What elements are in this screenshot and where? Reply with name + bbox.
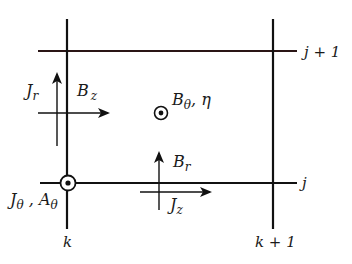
jz-label: Jz — [167, 195, 183, 217]
staggered-grid-diagram: j + 1 j k k + 1 Jr Bz Bθ, η Br Jz Jθ , A… — [0, 0, 352, 264]
bz-label: Bz — [76, 81, 98, 103]
row-label-j-plus-1: j + 1 — [301, 43, 340, 61]
br-label: Br — [172, 152, 192, 174]
btheta-eta-label: Bθ, η — [171, 90, 211, 112]
row-label-j: j — [299, 174, 307, 192]
btheta-out-of-plane-icon — [155, 107, 168, 120]
col-label-k-plus-1: k + 1 — [255, 233, 296, 251]
col-label-k: k — [63, 233, 72, 251]
jtheta-out-of-plane-icon — [61, 176, 76, 191]
jtheta-atheta-label: Jθ , Aθ — [7, 190, 58, 212]
jr-label: Jr — [23, 81, 39, 103]
